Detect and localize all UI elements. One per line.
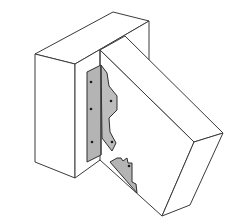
nail-icon: [90, 108, 93, 111]
joist-hanger-illustration: [0, 0, 232, 224]
nail-icon: [110, 100, 113, 103]
header-front-face: [35, 54, 75, 178]
nail-icon: [91, 141, 94, 144]
nail-icon: [128, 165, 131, 168]
hanger-left-flange: [87, 65, 101, 162]
nail-icon: [111, 141, 114, 144]
joist: [100, 36, 223, 216]
nail-icon: [90, 81, 93, 84]
